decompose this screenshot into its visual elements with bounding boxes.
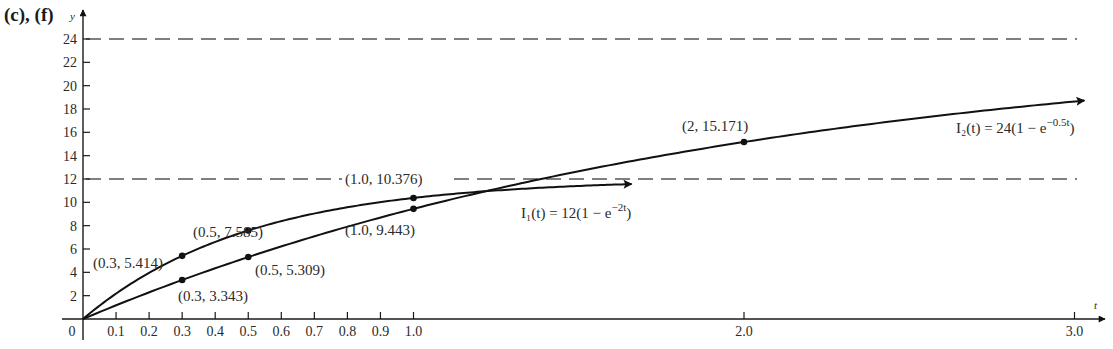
y-tick-label: 6 (70, 242, 77, 257)
origin-label: 0 (69, 324, 76, 339)
point-label: (1.0, 9.443) (345, 222, 415, 239)
x-tick-label: 0.6 (273, 324, 291, 339)
x-tick-label: 1.0 (405, 324, 423, 339)
point-label: (0.5, 5.309) (255, 262, 325, 279)
x-tick-label: 0.5 (240, 324, 258, 339)
y-tick-label: 24 (63, 32, 77, 47)
y-tick-label: 16 (63, 125, 77, 140)
y-tick-label: 4 (70, 265, 77, 280)
y-tick-label: 12 (63, 172, 77, 187)
data-point (741, 139, 748, 146)
data-point (245, 254, 252, 261)
point-label: (0.5, 7.585) (193, 224, 263, 241)
data-point (410, 195, 417, 202)
y-tick-label: 8 (70, 219, 77, 234)
line-chart: ty0.10.20.30.40.50.60.70.80.91.02.03.002… (0, 0, 1113, 349)
y-tick-label: 20 (63, 79, 77, 94)
y-tick-label: 2 (70, 289, 77, 304)
y-tick-label: 10 (63, 195, 77, 210)
asymptote-lines (86, 39, 1077, 179)
labels: (0.3, 5.414)(0.5, 7.585)(1.0, 10.376)(0.… (93, 116, 1074, 305)
x-tick-label: 0.4 (206, 324, 224, 339)
equation-label-i1: I₁(t) = 12(1 − e−2t) (521, 201, 631, 222)
x-tick-label: 0.8 (339, 324, 357, 339)
x-tick-label: 3.0 (1066, 324, 1084, 339)
equation-label-i2: I₂(t) = 24(1 − e−0.5t) (956, 116, 1074, 137)
point-label: (0.3, 5.414) (93, 255, 163, 272)
y-tick-label: 14 (63, 149, 77, 164)
point-label: (2, 15.171) (682, 118, 748, 135)
y-tick-label: 18 (63, 102, 77, 117)
x-tick-label: 0.3 (173, 324, 191, 339)
x-tick-label: 0.9 (372, 324, 390, 339)
point-label: (1.0, 10.376) (345, 171, 423, 188)
y-axis-label: y (69, 10, 75, 22)
point-label: (0.3, 3.343) (178, 288, 248, 305)
x-axis-label: t (1094, 299, 1098, 311)
data-point (410, 206, 417, 213)
data-point (179, 253, 186, 260)
x-tick-label: 0.7 (306, 324, 324, 339)
data-point (179, 277, 186, 284)
x-tick-label: 2.0 (735, 324, 753, 339)
y-tick-label: 22 (63, 55, 77, 70)
x-tick-label: 0.2 (140, 324, 158, 339)
x-tick-label: 0.1 (107, 324, 125, 339)
